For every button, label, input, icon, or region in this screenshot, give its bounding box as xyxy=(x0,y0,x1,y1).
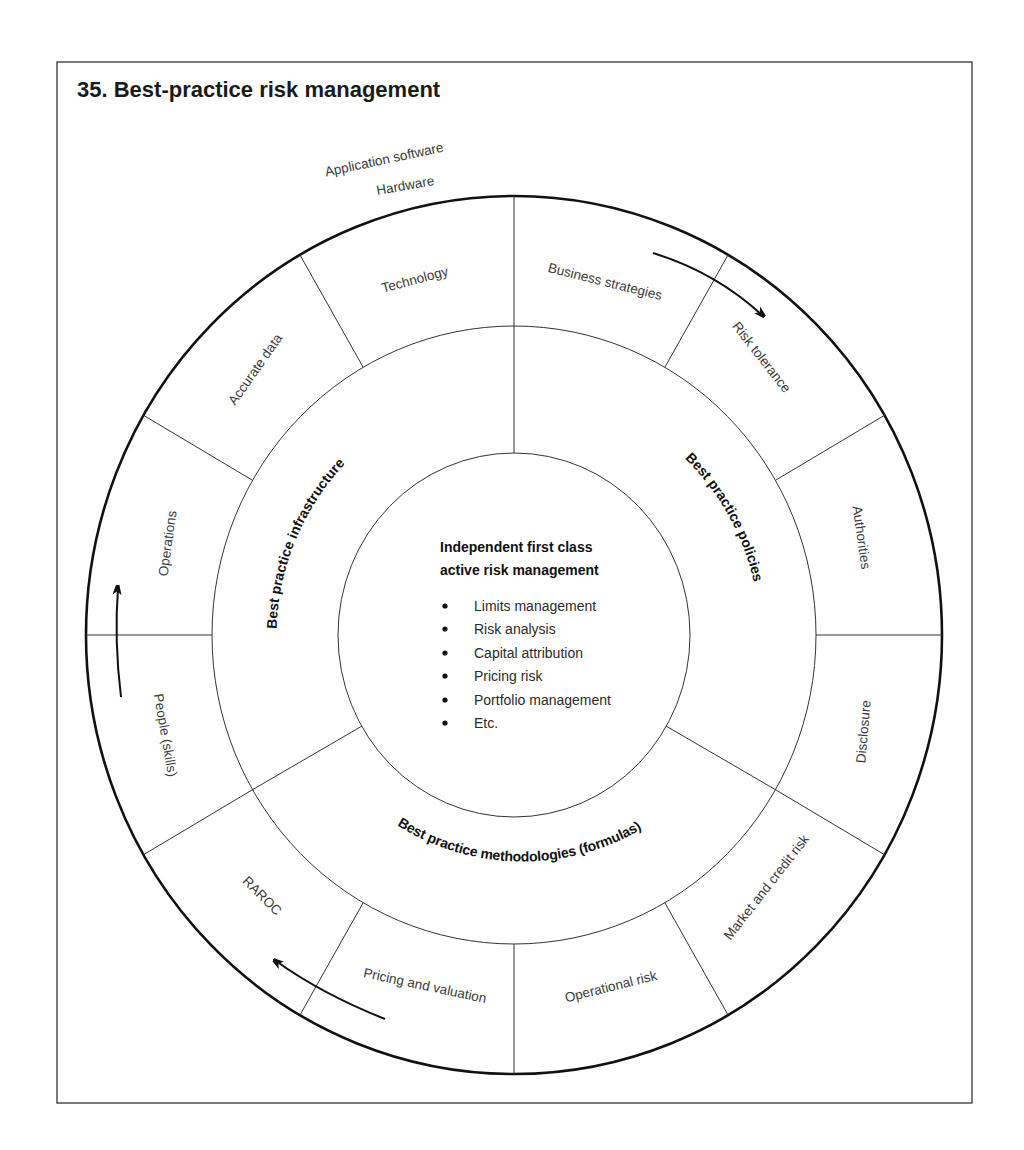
segment-pricing-and-valuation: Pricing and valuation xyxy=(362,965,488,1006)
core-item: Portfolio management xyxy=(474,692,611,708)
segment-business-strategies: Business strategies xyxy=(546,260,663,303)
segment-raroc: RAROC xyxy=(240,873,285,918)
bullet-icon xyxy=(442,626,447,631)
segment-disclosure: Disclosure xyxy=(853,700,873,764)
core-item: Limits management xyxy=(474,598,596,614)
core-bullet-list: Limits management Risk analysis Capital … xyxy=(442,598,611,731)
core-heading-line2: active risk management xyxy=(440,562,599,578)
core-item: Pricing risk xyxy=(474,668,543,684)
core-item: Capital attribution xyxy=(474,645,583,661)
clockwise-arrow-icon xyxy=(653,253,762,315)
segment-accurate-data: Accurate data xyxy=(225,331,285,408)
segment-people-skills: People (skills) xyxy=(151,693,180,778)
segment-risk-tolerance: Risk tolerance xyxy=(729,319,793,396)
diagram-canvas: 35. Best-practice risk management Applic… xyxy=(0,0,1024,1150)
middle-label-infrastructure: Best practice infrastructure xyxy=(263,455,347,630)
segment-operations: Operations xyxy=(156,509,180,577)
bullet-icon xyxy=(442,650,447,655)
upward-arrow-icon xyxy=(117,588,121,697)
segment-technology: Technology xyxy=(380,264,450,296)
core-item: Risk analysis xyxy=(474,621,556,637)
segment-operational-risk: Operational risk xyxy=(563,968,659,1005)
core-item: Etc. xyxy=(474,715,498,731)
bullet-icon xyxy=(442,697,447,702)
middle-label-methodologies: Best practice methodologies (formulas) xyxy=(395,814,643,865)
segment-authorities: Authorities xyxy=(850,505,874,570)
bullet-icon xyxy=(442,720,447,725)
segment-market-and-credit-risk: Market and credit risk xyxy=(721,832,812,943)
middle-ring-dividers xyxy=(252,326,776,790)
middle-label-policies: Best practice policies xyxy=(682,449,766,583)
core-heading-line1: Independent first class xyxy=(440,539,593,555)
annotation-hardware: Hardware xyxy=(375,173,435,198)
bullet-icon xyxy=(442,673,447,678)
figure-title: 35. Best-practice risk management xyxy=(77,77,441,102)
bullet-icon xyxy=(442,603,447,608)
